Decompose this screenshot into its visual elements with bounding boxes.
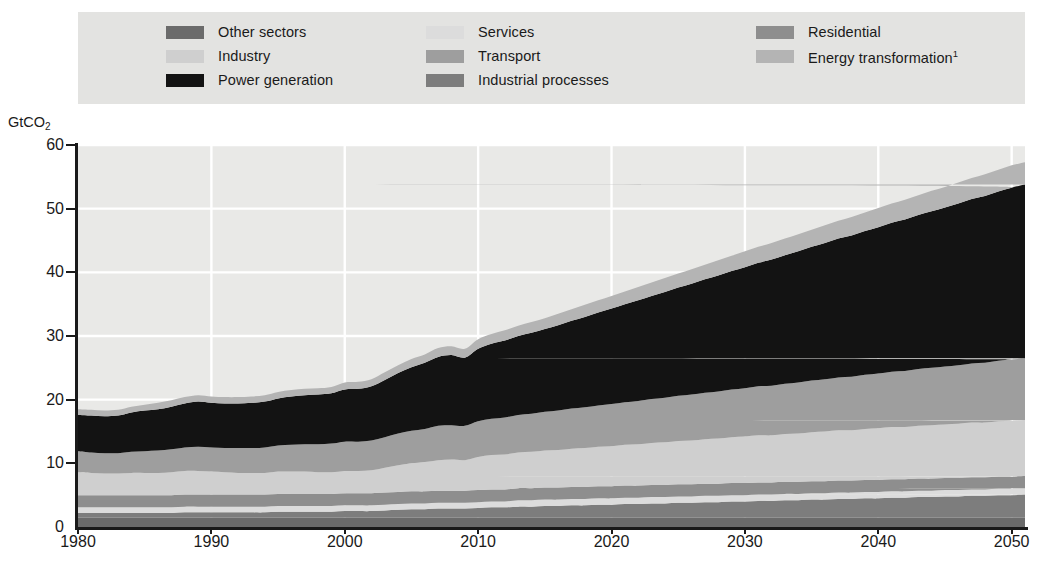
y-tick-label: 30 [18, 328, 64, 344]
legend-column-1: Other sectors Industry Power generation [78, 12, 422, 92]
x-tick-mark [877, 527, 879, 534]
legend-label-industrial-processes: Industrial processes [478, 73, 609, 87]
y-tick-label: 0 [18, 519, 64, 535]
x-tick-label: 2050 [994, 534, 1030, 550]
y-tick-label: 50 [18, 201, 64, 217]
x-tick-label: 2040 [860, 534, 896, 550]
x-tick-label: 2010 [460, 534, 496, 550]
x-tick-label: 2000 [327, 534, 363, 550]
legend-item-industry: Industry [166, 44, 422, 68]
legend-label-energy-transformation-text: Energy transformation [808, 50, 953, 66]
y-tick-mark [66, 399, 78, 401]
legend-label-industry: Industry [218, 49, 270, 63]
legend-swatch-industrial-processes [426, 74, 464, 87]
legend-swatch-residential [756, 26, 794, 39]
x-tick-label: 2020 [594, 534, 630, 550]
chart-legend: Other sectors Industry Power generation … [78, 12, 1025, 104]
x-tick-mark [477, 527, 479, 534]
y-tick-label: 60 [18, 137, 64, 153]
x-axis-line [75, 527, 1028, 530]
x-tick-label: 1990 [194, 534, 230, 550]
x-tick-mark [744, 527, 746, 534]
x-tick-label: 2030 [727, 534, 763, 550]
legend-column-2: Services Transport Industrial processes [422, 12, 736, 92]
legend-item-industrial-processes: Industrial processes [426, 68, 736, 92]
legend-swatch-power-generation [166, 74, 204, 87]
x-tick-label: 1980 [60, 534, 96, 550]
legend-item-residential: Residential [756, 20, 1025, 44]
legend-item-power-generation: Power generation [166, 68, 422, 92]
y-tick-mark [66, 335, 78, 337]
legend-swatch-energy-transformation [756, 50, 794, 63]
legend-label-residential: Residential [808, 25, 881, 39]
x-tick-mark [1011, 527, 1013, 534]
legend-item-energy-transformation: Energy transformation1 [756, 44, 1025, 68]
y-tick-label: 20 [18, 392, 64, 408]
area-series-other-sectors [78, 517, 1025, 527]
x-tick-mark [344, 527, 346, 534]
area-series-group [78, 162, 1025, 527]
legend-label-transport: Transport [478, 49, 540, 63]
legend-swatch-transport [426, 50, 464, 63]
legend-item-transport: Transport [426, 44, 736, 68]
legend-column-3: Residential Energy transformation1 [736, 12, 1025, 92]
y-tick-mark [66, 208, 78, 210]
legend-item-other-sectors: Other sectors [166, 20, 422, 44]
legend-swatch-industry [166, 50, 204, 63]
x-tick-mark [77, 527, 79, 534]
legend-label-energy-transformation: Energy transformation1 [808, 47, 958, 65]
y-tick-label: 40 [18, 264, 64, 280]
x-tick-mark [611, 527, 613, 534]
y-tick-label: 10 [18, 455, 64, 471]
legend-footnote-marker: 1 [953, 48, 958, 59]
legend-item-services: Services [426, 20, 736, 44]
legend-swatch-services [426, 26, 464, 39]
y-tick-mark [66, 462, 78, 464]
y-tick-mark [66, 144, 78, 146]
legend-label-services: Services [478, 25, 534, 39]
chart-plot-area [78, 145, 1025, 527]
legend-swatch-other-sectors [166, 26, 204, 39]
y-tick-labels: 6050403020100 [14, 0, 64, 571]
legend-label-power-generation: Power generation [218, 73, 333, 87]
y-tick-mark [66, 271, 78, 273]
legend-label-other-sectors: Other sectors [218, 25, 306, 39]
x-tick-mark [210, 527, 212, 534]
stacked-area-svg [78, 145, 1025, 527]
